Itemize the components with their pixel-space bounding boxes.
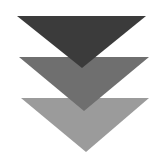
stacked-triangles-graphic <box>0 0 155 155</box>
